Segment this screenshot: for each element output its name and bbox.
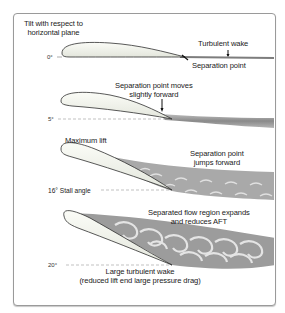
angle-label-16: 16° Stall angle: [48, 187, 91, 194]
title-line-2: horizontal plane: [24, 29, 83, 38]
diagram-title: Tilt with respect to horizontal plane: [24, 20, 83, 37]
separation-moves-label: Separation point moves slightly forward: [115, 82, 193, 99]
turbulent-wake: [180, 56, 275, 59]
angle-label-5: 5°: [48, 116, 54, 122]
angle-label-20: 20°: [48, 262, 57, 268]
angle-label-0: 0°: [47, 54, 53, 60]
separated-flow-label: Separated flow region expands and reduce…: [148, 209, 250, 226]
separation-point-label: Separation point: [192, 62, 246, 71]
separation-jumps-label: Separation point jumps forward: [190, 150, 244, 167]
maximum-lift-label: Maximum lift: [65, 137, 106, 146]
turbulent-wake-label: Turbulent wake: [198, 40, 248, 49]
large-wake-label: Large turbulent wake (reduced lift end l…: [60, 268, 220, 285]
turbulent-wake: [160, 114, 275, 128]
airfoil: [62, 42, 185, 57]
separation-arrowhead: [161, 108, 164, 112]
